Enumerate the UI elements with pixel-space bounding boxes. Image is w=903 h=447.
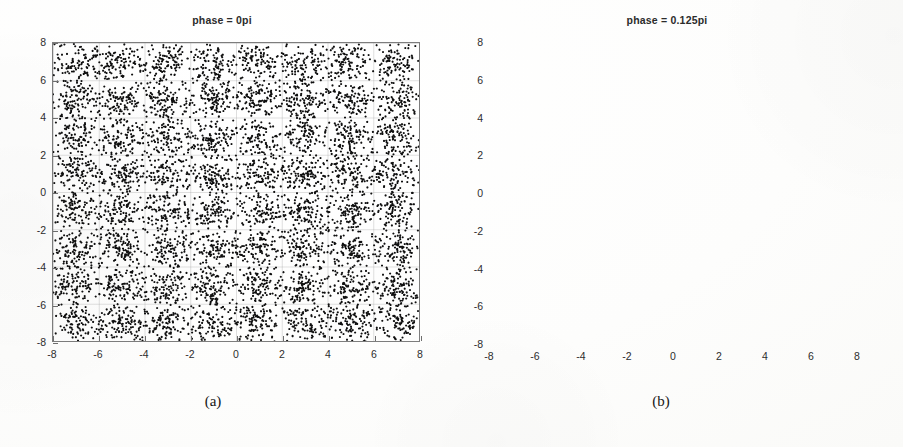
y-tick	[53, 193, 58, 194]
x-tick-label: -6	[530, 350, 539, 362]
y-tick	[53, 43, 58, 44]
scatter-points-a	[53, 43, 419, 341]
x-tick	[145, 336, 146, 341]
y-tick-label: -4	[459, 263, 483, 275]
y-tick	[53, 306, 58, 307]
x-tick-label: 2	[716, 350, 722, 362]
x-tick	[99, 336, 100, 341]
x-tick-label: 4	[762, 350, 768, 362]
y-tick-label: 0	[459, 187, 483, 199]
x-tick-label: -4	[139, 348, 148, 360]
x-tick-label: -6	[93, 348, 102, 360]
x-tick-label: 8	[417, 348, 423, 360]
y-tick	[53, 268, 58, 269]
y-tick	[53, 81, 58, 82]
panel-caption-a: (a)	[0, 393, 438, 410]
x-tick	[191, 336, 192, 341]
y-tick-label: 8	[22, 36, 46, 48]
y-tick-label: 6	[22, 74, 46, 86]
x-tick-label: -4	[576, 350, 585, 362]
x-tick-label: -2	[622, 350, 631, 362]
y-tick-label: 4	[22, 111, 46, 123]
x-tick-label: 6	[808, 350, 814, 362]
plot-title-a: phase = 0pi	[0, 14, 447, 26]
x-tick-label: 2	[279, 348, 285, 360]
y-tick-label: -8	[459, 338, 483, 350]
x-tick	[53, 336, 54, 341]
x-tick	[421, 336, 422, 341]
y-tick-label: -2	[22, 224, 46, 236]
panel-caption-b: (b)	[436, 393, 886, 410]
y-tick-label: 0	[22, 186, 46, 198]
y-tick-label: 2	[22, 149, 46, 161]
x-tick-label: 6	[371, 348, 377, 360]
y-tick-label: -6	[22, 299, 46, 311]
x-tick-label: 0	[233, 348, 239, 360]
x-tick-label: -8	[484, 350, 493, 362]
x-tick	[237, 336, 238, 341]
x-tick-label: 8	[854, 350, 860, 362]
y-tick-label: -2	[459, 225, 483, 237]
plot-title-b: phase = 0.125pi	[442, 14, 892, 26]
figure-panel-b: phase = 0.125pi -8-6-4-202468 -8-6-4-202…	[450, 0, 900, 447]
y-tick	[53, 231, 58, 232]
y-tick	[53, 118, 58, 119]
x-tick-label: -2	[185, 348, 194, 360]
x-tick-label: 4	[325, 348, 331, 360]
y-tick-label: -6	[459, 300, 483, 312]
x-tick-label: 0	[670, 350, 676, 362]
figure-constellation-pair: phase = 0pi -8-6-4-202468 -8-6-4-202468 …	[0, 0, 903, 447]
y-tick	[53, 156, 58, 157]
y-tick	[53, 343, 58, 344]
x-tick	[329, 336, 330, 341]
x-tick	[283, 336, 284, 341]
y-tick-label: -4	[22, 261, 46, 273]
y-tick-label: -8	[22, 336, 46, 348]
plot-axes-a	[52, 42, 420, 342]
y-tick-label: 4	[459, 112, 483, 124]
x-tick	[375, 336, 376, 341]
x-tick-label: -8	[47, 348, 56, 360]
y-tick-label: 2	[459, 149, 483, 161]
y-tick-label: 8	[459, 36, 483, 48]
y-tick-label: 6	[459, 74, 483, 86]
scatter-marker-path	[53, 43, 419, 341]
figure-panel-a: phase = 0pi -8-6-4-202468 -8-6-4-202468 …	[0, 0, 450, 447]
